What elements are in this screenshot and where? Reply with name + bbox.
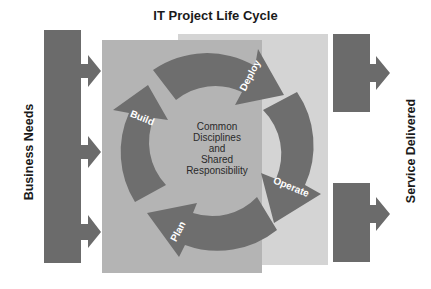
center-caption: Common Disciplines and Shared Responsibi…	[172, 121, 262, 176]
center-line-4: Shared	[172, 154, 262, 165]
diagram-canvas: Build Deploy Operate Plan IT Project Lif…	[0, 0, 431, 289]
center-line-2: Disciplines	[172, 132, 262, 143]
diagram-title: IT Project Life Cycle	[0, 8, 431, 23]
center-line-3: and	[172, 143, 262, 154]
input-arrow-2	[81, 136, 101, 168]
center-line-1: Common	[172, 121, 262, 132]
service-delivered-label: Service Delivered	[404, 96, 418, 206]
output-arrow-1	[370, 56, 390, 90]
input-arrow-3	[81, 215, 101, 248]
output-arrow-2	[370, 197, 390, 231]
business-needs-bar	[44, 30, 101, 263]
input-arrow-1	[81, 55, 101, 87]
service-delivered-bars	[333, 34, 390, 262]
business-needs-label: Business Needs	[22, 102, 36, 202]
center-line-5: Responsibility	[172, 165, 262, 176]
